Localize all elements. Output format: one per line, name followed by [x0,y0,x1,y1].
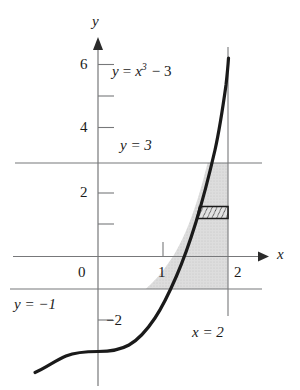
y-axis-label: y [92,14,99,29]
y-tick-label-2: 2 [80,185,88,200]
curve-equation-label: y=x3− 3 [112,64,172,79]
label-line-y-minus-1: y = −1 [14,297,56,312]
x-axis-label: x [277,247,284,262]
x-tick-label-0: 0 [78,265,86,280]
y-axis-arrowhead [93,37,103,50]
equation-lhs: y [112,63,119,79]
equation-tail: − 3 [152,63,172,79]
equation-equals: = [123,63,131,79]
math-figure: y x 6 4 2 −2 0 1 2 y=x3− 3 y = 3 y = −1 … [0,0,300,390]
x-tick-label-1: 1 [158,265,166,280]
label-line-x2: x = 2 [192,325,224,340]
y-tick-label-minus-2: −2 [106,313,122,328]
x-axis-arrowhead [258,252,269,262]
equation-exponent: 3 [142,61,147,72]
x-tick-label-2: 2 [234,265,242,280]
label-line-y3: y = 3 [120,138,152,153]
y-tick-label-6: 6 [80,57,88,72]
equation-base: x [135,63,142,79]
plot-canvas [0,0,300,390]
y-tick-label-4: 4 [80,120,88,135]
